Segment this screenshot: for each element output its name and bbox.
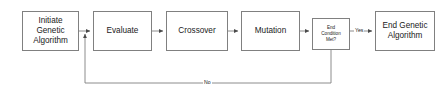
node-label-crossover: Crossover	[178, 26, 215, 36]
edge-label-no: No	[203, 80, 212, 85]
node-label-initiate: Initiate Genetic Algorithm	[33, 16, 68, 46]
node-crossover[interactable]: Crossover	[166, 11, 228, 51]
node-mutation[interactable]: Mutation	[241, 11, 300, 51]
node-label-end-algorithm: End Genetic Algorithm	[382, 21, 427, 41]
node-evaluate[interactable]: Evaluate	[93, 11, 152, 51]
node-label-end-condition: End Condition Met?	[321, 25, 340, 43]
node-end-condition-met[interactable]: End Condition Met?	[312, 18, 350, 50]
edge-label-yes: Yes	[354, 28, 364, 33]
node-label-evaluate: Evaluate	[107, 26, 139, 36]
node-initiate-genetic-algorithm[interactable]: Initiate Genetic Algorithm	[22, 11, 79, 51]
flowchart-canvas: Initiate Genetic Algorithm Evaluate Cros…	[0, 0, 447, 94]
node-end-genetic-algorithm[interactable]: End Genetic Algorithm	[375, 11, 435, 51]
node-label-mutation: Mutation	[255, 26, 286, 36]
